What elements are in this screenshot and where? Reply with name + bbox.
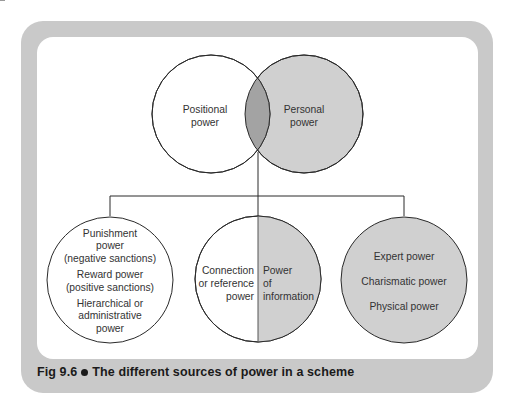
personal-sources-label: Expert power Charismatic power Physical …: [344, 250, 464, 313]
punishment-power: Punishment power (negative sanctions): [50, 228, 170, 265]
hierarchical-power: Hierarchical or administrative power: [50, 298, 170, 335]
personal-power-label: Personal power: [272, 103, 336, 129]
figure-caption: Fig 9.6The different sources of power in…: [37, 365, 354, 379]
positional-power-label: Positional power: [170, 103, 240, 129]
power-diagram: [0, 0, 514, 412]
expert-power: Expert power: [344, 250, 464, 263]
connection-power-label: Connection or reference power: [196, 264, 254, 303]
figure-number: Fig 9.6: [37, 365, 77, 379]
charismatic-power: Charismatic power: [344, 275, 464, 288]
reward-power: Reward power (positive sanctions): [50, 269, 170, 294]
figure-caption-text: The different sources of power in a sche…: [92, 365, 354, 379]
bullet-icon: [81, 369, 88, 376]
physical-power: Physical power: [344, 300, 464, 313]
information-power-label: Power of information: [263, 264, 323, 303]
positional-sources-label: Punishment power (negative sanctions) Re…: [50, 228, 170, 335]
